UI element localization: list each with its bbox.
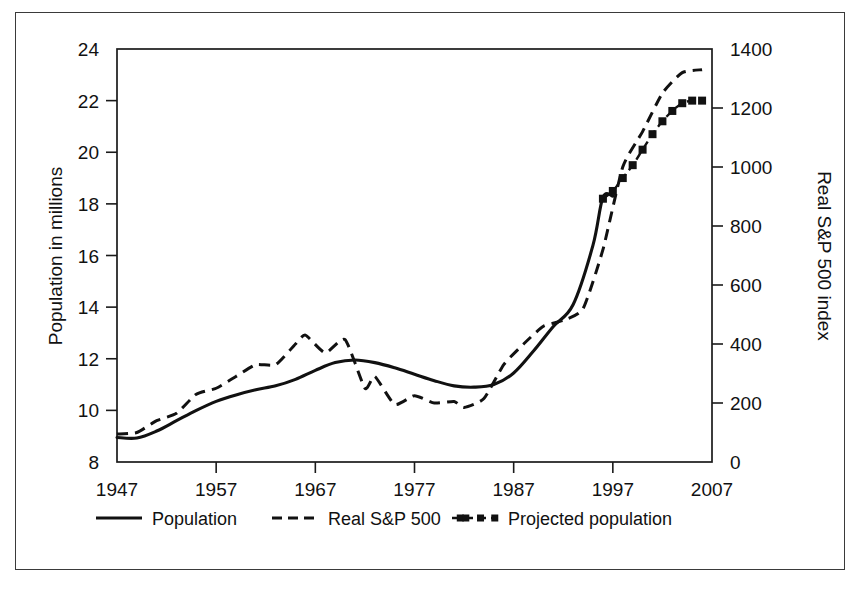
y-tick-label-left-20: 20 <box>78 142 99 163</box>
legend-item-projected-population[interactable]: Projected population <box>452 509 672 529</box>
plot-area-border <box>117 49 712 462</box>
y-axis-left-title: Population in millions <box>45 167 66 346</box>
y-tick-label-right-800: 800 <box>730 216 762 237</box>
x-tick-label-2007: 2007 <box>691 479 733 500</box>
legend-marker-square <box>477 515 484 522</box>
y-tick-label-left-8: 8 <box>88 452 99 473</box>
legend-marker-square <box>462 515 469 522</box>
projected-marker-1999 <box>629 161 637 169</box>
x-axis-tick-labels: 1947195719671977198719972007 <box>96 479 733 500</box>
y-axis-right-ticks <box>712 108 723 403</box>
y-tick-label-right-1200: 1200 <box>730 98 772 119</box>
projected-marker-2006 <box>698 97 706 105</box>
y-tick-label-right-200: 200 <box>730 393 762 414</box>
projected-marker-2001 <box>649 130 657 138</box>
y-tick-label-right-1000: 1000 <box>730 157 772 178</box>
y-axis-right-tick-labels: 0200400600800100012001400 <box>730 39 772 473</box>
legend-item-real-s-p-500[interactable]: Real S&P 500 <box>272 509 441 529</box>
projected-marker-2002 <box>658 117 666 125</box>
data-series-layer <box>117 70 706 439</box>
y-axis-left-ticks <box>106 101 117 411</box>
y-axis-right-title: Real S&P 500 index <box>814 171 835 341</box>
x-tick-label-1977: 1977 <box>393 479 435 500</box>
projected-marker-2005 <box>688 97 696 105</box>
figure-root: 81012141618202224 0200400600800100012001… <box>0 0 856 590</box>
legend-label: Projected population <box>508 509 672 529</box>
y-tick-label-right-400: 400 <box>730 334 762 355</box>
legend-marker-square <box>491 515 498 522</box>
x-tick-label-1987: 1987 <box>493 479 535 500</box>
x-axis-ticks <box>216 462 613 473</box>
y-tick-label-left-24: 24 <box>78 39 100 60</box>
x-tick-label-1957: 1957 <box>195 479 237 500</box>
projected-marker-2000 <box>639 146 647 154</box>
y-tick-label-left-22: 22 <box>78 91 99 112</box>
projected-marker-2003 <box>668 107 676 115</box>
y-tick-label-right-1400: 1400 <box>730 39 772 60</box>
projected-marker-1996 <box>599 195 607 203</box>
x-tick-label-1997: 1997 <box>592 479 634 500</box>
x-tick-label-1947: 1947 <box>96 479 138 500</box>
y-tick-label-right-0: 0 <box>730 452 741 473</box>
y-tick-label-left-14: 14 <box>78 297 100 318</box>
x-tick-label-1967: 1967 <box>294 479 336 500</box>
chart-canvas: 81012141618202224 0200400600800100012001… <box>0 0 856 590</box>
chart-legend: PopulationReal S&P 500Projected populati… <box>96 509 672 529</box>
y-axis-left-tick-labels: 81012141618202224 <box>78 39 100 473</box>
y-tick-label-right-600: 600 <box>730 275 762 296</box>
projected-marker-2004 <box>678 99 686 107</box>
projected-marker-1997 <box>609 187 617 195</box>
y-tick-label-left-10: 10 <box>78 400 99 421</box>
series-line-real-sp500 <box>117 70 702 434</box>
legend-item-population[interactable]: Population <box>96 509 237 529</box>
y-tick-label-left-16: 16 <box>78 246 99 267</box>
y-tick-label-left-18: 18 <box>78 194 99 215</box>
projected-marker-1998 <box>619 174 627 182</box>
series-line-population <box>117 193 613 438</box>
y-tick-label-left-12: 12 <box>78 349 99 370</box>
legend-label: Population <box>152 509 237 529</box>
legend-label: Real S&P 500 <box>328 509 441 529</box>
